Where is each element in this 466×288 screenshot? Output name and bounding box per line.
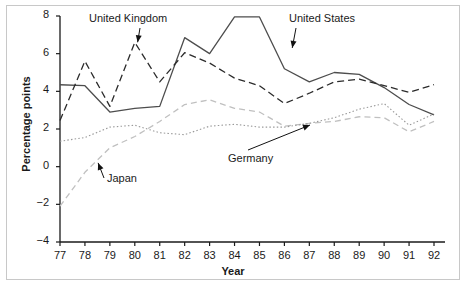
series-label-japan: Japan	[107, 172, 137, 184]
series-line-united-states	[60, 17, 434, 115]
x-tick-label: 86	[271, 249, 297, 261]
annotation-arrow-head-germany	[302, 125, 310, 131]
y-tick-label: −2	[23, 196, 49, 208]
y-tick-label: 4	[23, 83, 49, 95]
x-tick-label: 87	[296, 249, 322, 261]
x-tick-label: 91	[396, 249, 422, 261]
series-label-united-states: United States	[289, 12, 355, 24]
annotation-arrow-head-japan	[98, 163, 104, 171]
x-tick-label: 81	[147, 249, 173, 261]
y-tick-label: −4	[23, 234, 49, 246]
x-tick-label: 88	[321, 249, 347, 261]
x-tick-label: 80	[122, 249, 148, 261]
annotation-arrow-head-united-states	[291, 41, 297, 48]
y-tick-label: 0	[23, 159, 49, 171]
y-tick-label: 8	[23, 8, 49, 20]
series-label-germany: Germany	[228, 152, 273, 164]
x-tick-label: 82	[172, 249, 198, 261]
annotation-arrow-head-united-kingdom	[136, 35, 142, 42]
series-line-germany	[60, 104, 434, 142]
x-tick-label: 89	[346, 249, 372, 261]
x-tick-label: 79	[97, 249, 123, 261]
annotation-arrow-line-germany	[248, 125, 310, 150]
x-tick-label: 85	[246, 249, 272, 261]
x-tick-label: 77	[47, 249, 73, 261]
x-tick-label: 78	[72, 249, 98, 261]
x-axis-title: Year	[0, 265, 466, 277]
series-label-united-kingdom: United Kingdom	[89, 12, 167, 24]
y-tick-label: 2	[23, 121, 49, 133]
series-line-united-kingdom	[60, 42, 434, 120]
x-tick-label: 84	[222, 249, 248, 261]
x-tick-label: 90	[371, 249, 397, 261]
chart-figure: Percentage points Year 86420−2−4 7778798…	[0, 0, 466, 288]
x-tick-label: 83	[197, 249, 223, 261]
y-tick-label: 6	[23, 46, 49, 58]
x-tick-label: 92	[421, 249, 447, 261]
line-chart-plot	[0, 0, 466, 288]
